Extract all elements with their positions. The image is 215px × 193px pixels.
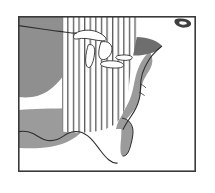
lake-erie	[101, 61, 124, 68]
map-contents	[18, 16, 196, 172]
maine-dark-patch-inner	[179, 21, 187, 25]
map-canvas	[0, 0, 215, 193]
lake-ontario	[116, 55, 132, 60]
distribution-map	[0, 0, 215, 193]
map-figure-root: Eastern and Central United States Distri…	[0, 0, 215, 193]
